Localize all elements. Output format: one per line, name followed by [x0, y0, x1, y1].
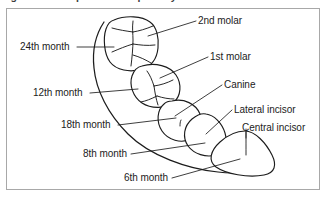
- label-first-molar: 1st molar: [210, 51, 251, 62]
- label-second-molar: 2nd molar: [198, 15, 242, 26]
- label-month-12: 12th month: [33, 87, 83, 98]
- dental-arch-illustration: [0, 0, 331, 201]
- label-month-18: 18th month: [61, 119, 111, 130]
- label-canine: Canine: [224, 79, 255, 90]
- tooth-second-molar: [104, 17, 158, 71]
- label-central-incisor: Central incisor: [242, 122, 305, 133]
- label-month-8: 8th month: [83, 148, 127, 159]
- leader-month-12: [90, 89, 138, 93]
- label-month-24: 24th month: [20, 41, 70, 52]
- label-lateral-incisor: Lateral incisor: [234, 104, 296, 115]
- label-month-6: 6th month: [124, 172, 168, 183]
- figure-root: Figure 1-2. Eruption of the primary teet…: [0, 0, 331, 201]
